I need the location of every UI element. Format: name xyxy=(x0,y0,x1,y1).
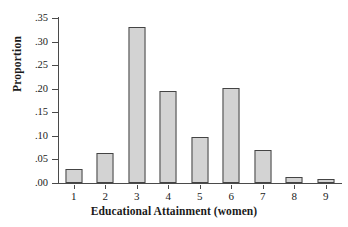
bar-slot xyxy=(279,18,311,183)
bar[interactable] xyxy=(254,150,271,183)
x-axis-tick xyxy=(200,185,201,189)
bar[interactable] xyxy=(160,91,177,183)
bar-slot xyxy=(216,18,248,183)
x-axis-tick xyxy=(294,185,295,189)
bar[interactable] xyxy=(191,137,208,183)
x-axis-tick xyxy=(231,185,232,189)
x-axis-tick-label: 9 xyxy=(310,190,342,203)
bar-series xyxy=(58,18,342,183)
y-axis-tick-label: .15 xyxy=(22,107,48,118)
bar-slot xyxy=(58,18,90,183)
y-axis-tick-label: .25 xyxy=(22,60,48,71)
x-axis-tick-label: 8 xyxy=(279,190,311,203)
y-axis-tick-labels: .00.05.10.15.20.25.30.35 xyxy=(18,0,48,227)
x-axis-tick xyxy=(168,185,169,189)
y-axis-tick-label: .10 xyxy=(22,131,48,142)
bar[interactable] xyxy=(317,179,334,183)
y-axis-tick-label: .20 xyxy=(22,84,48,95)
bar[interactable] xyxy=(128,27,145,183)
x-axis-tick-label: 7 xyxy=(247,190,279,203)
y-axis-tick-label: .05 xyxy=(22,154,48,165)
y-axis-tick-label: .35 xyxy=(22,13,48,24)
x-axis-tick-label: 5 xyxy=(184,190,216,203)
bar-slot xyxy=(153,18,185,183)
bar-slot xyxy=(184,18,216,183)
bar-chart: Proportion .00.05.10.15.20.25.30.35 1234… xyxy=(0,0,348,227)
x-axis-line xyxy=(56,183,342,184)
x-axis-tick xyxy=(326,185,327,189)
x-axis-title: Educational Attainment (women) xyxy=(0,205,348,217)
x-axis-tick-label: 2 xyxy=(90,190,122,203)
x-axis-tick xyxy=(105,185,106,189)
x-axis-tick xyxy=(74,185,75,189)
x-axis-tick xyxy=(263,185,264,189)
bar[interactable] xyxy=(97,153,114,183)
bar[interactable] xyxy=(286,177,303,183)
y-axis-tick-label: .00 xyxy=(22,178,48,189)
x-axis-tick-label: 6 xyxy=(216,190,248,203)
x-axis-tick xyxy=(137,185,138,189)
x-axis-tick-label: 4 xyxy=(153,190,185,203)
y-axis-tick-label: .30 xyxy=(22,37,48,48)
bar-slot xyxy=(121,18,153,183)
x-axis-tick-label: 1 xyxy=(58,190,90,203)
bar[interactable] xyxy=(65,169,82,183)
bar-slot xyxy=(247,18,279,183)
x-axis-tick-label: 3 xyxy=(121,190,153,203)
bar[interactable] xyxy=(223,88,240,183)
bar-slot xyxy=(310,18,342,183)
bar-slot xyxy=(90,18,122,183)
